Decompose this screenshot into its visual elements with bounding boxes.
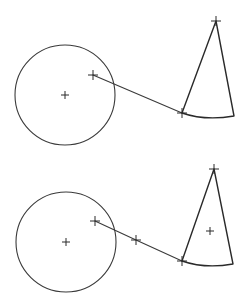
connector-line <box>95 221 182 261</box>
cone-apex-mark <box>209 164 219 174</box>
cone-sector <box>182 169 233 266</box>
line-point-mark-0 <box>88 70 98 80</box>
cone-apex-mark <box>211 16 221 26</box>
figure-bottom <box>16 164 233 292</box>
line-point-mark-1 <box>131 235 141 245</box>
line-point-mark-0 <box>90 216 100 226</box>
connector-line <box>93 75 182 113</box>
circle-center-mark <box>62 238 70 246</box>
figure-top <box>15 16 234 145</box>
cone-sector <box>182 21 234 118</box>
circle-center-mark <box>61 91 69 99</box>
diagram-svg <box>0 0 250 308</box>
diagram-canvas <box>0 0 250 308</box>
cone-centroid-mark <box>206 227 214 235</box>
